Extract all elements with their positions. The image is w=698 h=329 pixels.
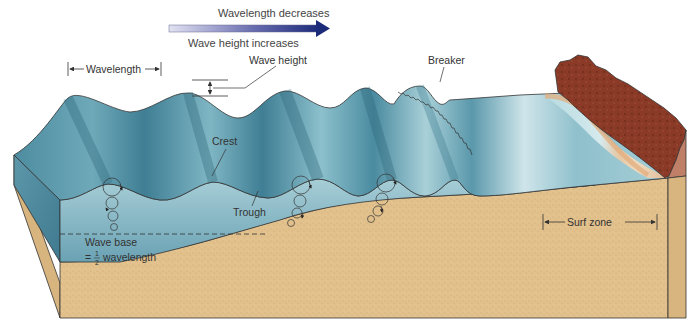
surf-zone-label: Surf zone: [567, 216, 612, 228]
wavelength-label: Wavelength: [86, 63, 141, 75]
wave-height-increases-label: Wave height increases: [188, 37, 299, 49]
wave-height-label: Wave height: [249, 54, 307, 66]
wave-base-fraction-numerator: 1: [95, 250, 99, 257]
diagram-canvas: Wavelength decreases Wave height increas…: [0, 0, 698, 329]
wavelength-dimension: Wavelength: [68, 62, 161, 76]
wave-base-fraction-denominator: 2: [95, 259, 99, 266]
trough-label: Trough: [233, 206, 266, 218]
wavelength-decreases-label: Wavelength decreases: [218, 7, 330, 19]
crest-label: Crest: [212, 135, 237, 147]
trend-arrow: Wavelength decreases Wave height increas…: [169, 7, 330, 49]
wave-diagram: Wavelength decreases Wave height increas…: [0, 0, 698, 329]
wave-base-wavelength-word: wavelength: [102, 251, 156, 263]
arrow-head-icon: [316, 20, 330, 37]
arrow-shaft: [169, 25, 319, 32]
breaker-callout: Breaker: [428, 54, 465, 82]
wave-base-equals: =: [85, 251, 91, 263]
breaker-label: Breaker: [428, 54, 465, 66]
wave-base-label: Wave base: [85, 236, 137, 248]
